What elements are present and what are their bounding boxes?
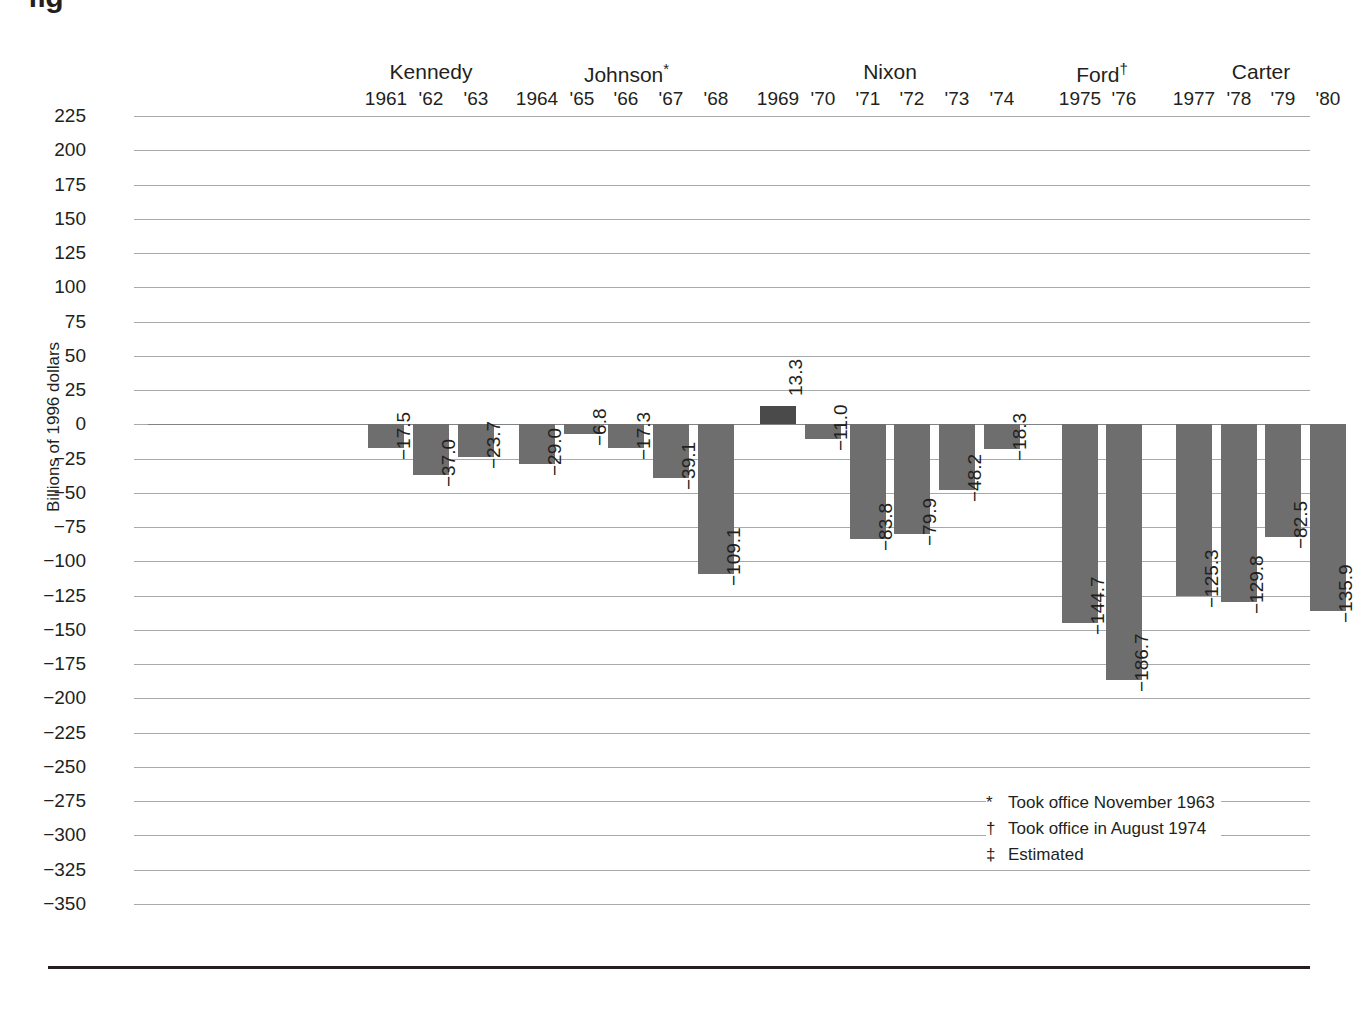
y-tick-label: 125 bbox=[26, 242, 86, 264]
gridline bbox=[148, 287, 1310, 288]
y-tick-mark bbox=[134, 185, 148, 186]
y-tick-label: −300 bbox=[26, 824, 86, 846]
bar bbox=[760, 406, 796, 424]
y-tick-mark bbox=[134, 150, 148, 151]
y-tick-label: −100 bbox=[26, 550, 86, 572]
gridline bbox=[148, 150, 1310, 151]
y-tick-mark bbox=[134, 527, 148, 528]
footnote-text: Took office in August 1974 bbox=[1008, 816, 1206, 842]
x-axis-year-label: '76 bbox=[1112, 88, 1137, 110]
bar-value-label: −186.7 bbox=[1131, 634, 1153, 693]
footnote-text: Took office November 1963 bbox=[1008, 790, 1215, 816]
y-tick-mark bbox=[134, 733, 148, 734]
y-tick-label: 25 bbox=[26, 379, 86, 401]
bar-value-label: −23.7 bbox=[483, 421, 505, 469]
y-tick-label: −225 bbox=[26, 722, 86, 744]
gridline bbox=[148, 733, 1310, 734]
x-axis-year-label: '63 bbox=[464, 88, 489, 110]
x-axis-year-label: '65 bbox=[570, 88, 595, 110]
y-tick-mark bbox=[134, 493, 148, 494]
bar-value-label: −11.0 bbox=[830, 405, 852, 452]
gridline bbox=[148, 185, 1310, 186]
y-tick-mark bbox=[134, 870, 148, 871]
president-group-label: Ford† bbox=[1076, 60, 1128, 87]
y-tick-label: −125 bbox=[26, 585, 86, 607]
bar-value-label: −17.3 bbox=[633, 412, 655, 460]
footnotes-block: *Took office November 1963†Took office i… bbox=[986, 788, 1221, 870]
plot-area: 2252001751501251007550250−25−50−75−100−1… bbox=[148, 116, 1310, 904]
y-tick-label: −50 bbox=[26, 482, 86, 504]
x-axis-year-label: 1975 bbox=[1059, 88, 1101, 110]
bar-value-label: −79.9 bbox=[919, 498, 941, 546]
gridline bbox=[148, 322, 1310, 323]
y-tick-mark bbox=[134, 356, 148, 357]
y-tick-label: 225 bbox=[26, 105, 86, 127]
y-tick-label: 100 bbox=[26, 276, 86, 298]
y-tick-mark bbox=[134, 904, 148, 905]
y-tick-mark bbox=[134, 116, 148, 117]
bar-value-label: −129.8 bbox=[1246, 556, 1268, 615]
gridline bbox=[148, 390, 1310, 391]
footnote-text: Estimated bbox=[1008, 842, 1084, 868]
president-name: Kennedy bbox=[390, 60, 473, 83]
bar-value-label: −135.9 bbox=[1335, 564, 1356, 623]
president-name: Ford bbox=[1076, 63, 1119, 86]
y-tick-mark bbox=[134, 767, 148, 768]
y-tick-mark bbox=[134, 596, 148, 597]
y-tick-label: −350 bbox=[26, 893, 86, 915]
y-tick-label: −25 bbox=[26, 448, 86, 470]
president-footnote-marker: * bbox=[663, 60, 669, 77]
y-tick-mark bbox=[134, 390, 148, 391]
x-axis-year-label: '78 bbox=[1227, 88, 1252, 110]
y-tick-mark bbox=[134, 424, 148, 425]
gridline bbox=[148, 904, 1310, 905]
x-axis-year-label: '66 bbox=[614, 88, 639, 110]
y-tick-mark bbox=[134, 287, 148, 288]
gridline bbox=[148, 219, 1310, 220]
bar-value-label: −109.1 bbox=[723, 527, 745, 586]
bar-value-label: −39.1 bbox=[678, 442, 700, 490]
footnote-marker: * bbox=[986, 790, 1008, 816]
y-tick-label: −75 bbox=[26, 516, 86, 538]
bar-value-label: −29.0 bbox=[544, 428, 566, 476]
x-axis-year-label: 1961 bbox=[365, 88, 407, 110]
bar-value-label: −48.2 bbox=[964, 454, 986, 502]
y-tick-mark bbox=[134, 835, 148, 836]
x-axis-year-label: '67 bbox=[659, 88, 684, 110]
x-axis-year-label: '62 bbox=[419, 88, 444, 110]
y-tick-label: 75 bbox=[26, 311, 86, 333]
y-tick-label: −200 bbox=[26, 687, 86, 709]
y-tick-label: −250 bbox=[26, 756, 86, 778]
x-axis-year-label: '73 bbox=[945, 88, 970, 110]
y-tick-mark bbox=[134, 219, 148, 220]
bar-value-label: −37.0 bbox=[438, 439, 460, 487]
y-tick-mark bbox=[134, 664, 148, 665]
y-tick-label: 50 bbox=[26, 345, 86, 367]
president-name: Johnson bbox=[584, 63, 663, 86]
y-tick-label: 175 bbox=[26, 174, 86, 196]
y-tick-label: −175 bbox=[26, 653, 86, 675]
y-tick-label: −325 bbox=[26, 859, 86, 881]
president-group-label: Kennedy bbox=[390, 60, 473, 84]
x-axis-year-label: '71 bbox=[856, 88, 881, 110]
x-axis-year-label: 1969 bbox=[757, 88, 799, 110]
x-axis-year-label: '79 bbox=[1271, 88, 1296, 110]
y-tick-mark bbox=[134, 253, 148, 254]
y-tick-label: 150 bbox=[26, 208, 86, 230]
x-axis-year-label: 1964 bbox=[516, 88, 558, 110]
gridline bbox=[148, 356, 1310, 357]
bottom-rule bbox=[48, 966, 1310, 969]
y-tick-mark bbox=[134, 801, 148, 802]
bar-value-label: −82.5 bbox=[1290, 501, 1312, 549]
x-axis-year-label: '80 bbox=[1316, 88, 1341, 110]
x-axis-year-label: '68 bbox=[704, 88, 729, 110]
president-name: Carter bbox=[1232, 60, 1290, 83]
president-group-label: Carter bbox=[1232, 60, 1290, 84]
bar-value-label: −18.3 bbox=[1009, 413, 1031, 461]
x-axis-year-label: '70 bbox=[811, 88, 836, 110]
gridline bbox=[148, 698, 1310, 699]
x-axis-year-label: 1977 bbox=[1173, 88, 1215, 110]
president-group-label: Nixon bbox=[863, 60, 917, 84]
y-tick-mark bbox=[134, 459, 148, 460]
x-axis-year-label: '74 bbox=[990, 88, 1015, 110]
